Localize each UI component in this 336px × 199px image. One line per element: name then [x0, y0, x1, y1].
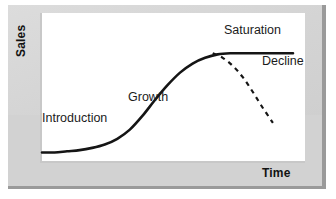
stage-label-decline: Decline — [262, 55, 304, 68]
stage-label-saturation: Saturation — [224, 24, 281, 37]
y-axis-label: Sales — [14, 11, 28, 57]
panel-right-shadow — [322, 5, 326, 189]
product-life-cycle-figure: Sales Time Introduction Growth Saturatio… — [0, 0, 336, 199]
stage-label-growth: Growth — [128, 91, 168, 104]
panel-bottom-shadow — [8, 186, 326, 189]
x-axis-label: Time — [262, 166, 291, 180]
stage-label-introduction: Introduction — [42, 112, 107, 125]
plot-area: Introduction Growth Saturation Decline — [40, 13, 305, 163]
